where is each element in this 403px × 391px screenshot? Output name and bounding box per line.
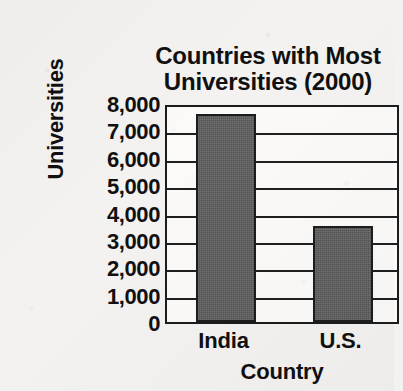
y-axis-tick-label: 3,000 bbox=[70, 231, 160, 253]
bar-chart: Countries with Most Universities (2000) … bbox=[40, 16, 354, 375]
chart-title-line-1: Countries with Most bbox=[118, 43, 403, 69]
y-axis-tick-label: 0 bbox=[70, 313, 160, 335]
chart-title: Countries with Most Universities (2000) bbox=[118, 43, 403, 95]
y-axis-label: Universities bbox=[43, 39, 69, 199]
y-axis-tick-label: 1,000 bbox=[70, 286, 160, 308]
y-axis-tick-labels: 8,0007,0006,0005,0004,0003,0002,0001,000… bbox=[70, 105, 160, 324]
x-axis-tick-label: U.S. bbox=[282, 328, 399, 354]
y-axis-tick-label: 6,000 bbox=[70, 149, 160, 171]
x-axis-tick-label: India bbox=[165, 328, 282, 354]
x-axis-tick-labels: IndiaU.S. bbox=[165, 328, 399, 356]
bar-u-s[interactable] bbox=[313, 226, 373, 322]
y-axis-tick-label: 7,000 bbox=[70, 121, 160, 143]
y-axis-tick-label: 2,000 bbox=[70, 258, 160, 280]
plot-area bbox=[165, 105, 399, 324]
y-axis-tick-label: 5,000 bbox=[70, 176, 160, 198]
y-axis-tick-label: 4,000 bbox=[70, 204, 160, 226]
chart-title-line-2: Universities (2000) bbox=[118, 69, 403, 95]
y-axis-tick-label: 8,000 bbox=[70, 94, 160, 116]
bar-india[interactable] bbox=[196, 114, 256, 322]
x-axis-label: Country bbox=[165, 359, 399, 385]
